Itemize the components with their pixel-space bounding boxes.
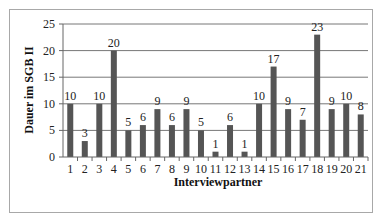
bar (227, 125, 233, 157)
bar (96, 104, 102, 157)
bar (154, 109, 160, 157)
x-tick-label: 12 (224, 162, 236, 176)
y-axis-title: Dauer im SGB II (22, 46, 36, 134)
data-label: 6 (169, 110, 175, 124)
data-label: 10 (340, 89, 352, 103)
bar (271, 67, 277, 157)
x-tick-label: 14 (253, 162, 265, 176)
data-label: 6 (227, 110, 233, 124)
bar (285, 109, 291, 157)
bar (329, 109, 335, 157)
data-label: 9 (154, 94, 160, 108)
data-label: 9 (183, 94, 189, 108)
y-tick-label: 5 (49, 123, 55, 137)
bar (183, 109, 189, 157)
data-label: 1 (213, 137, 219, 151)
x-tick-label: 16 (282, 162, 294, 176)
bar (125, 130, 131, 157)
data-label: 6 (140, 110, 146, 124)
data-label: 7 (300, 105, 306, 119)
x-tick-label: 8 (169, 162, 175, 176)
y-tick-label: 25 (43, 17, 55, 31)
data-label: 10 (64, 89, 76, 103)
y-tick-label: 20 (43, 44, 55, 58)
x-tick-label: 5 (125, 162, 131, 176)
x-tick-label: 10 (195, 162, 207, 176)
x-tick-label: 13 (239, 162, 251, 176)
x-tick-label: 15 (268, 162, 280, 176)
x-tick-label: 6 (140, 162, 146, 176)
y-tick-label: 10 (43, 97, 55, 111)
bar (111, 51, 117, 157)
y-tick-label: 0 (49, 150, 55, 164)
x-tick-label: 18 (311, 162, 323, 176)
x-tick-label: 7 (154, 162, 160, 176)
data-label: 5 (198, 115, 204, 129)
x-tick-label: 9 (183, 162, 189, 176)
x-tick-label: 1 (67, 162, 73, 176)
bar (242, 152, 248, 157)
x-tick-label: 11 (210, 162, 222, 176)
data-label: 9 (329, 94, 335, 108)
y-tick-label: 15 (43, 70, 55, 84)
data-label: 20 (108, 36, 120, 50)
data-label: 10 (253, 89, 265, 103)
bar (140, 125, 146, 157)
bar (213, 152, 219, 157)
data-label: 3 (82, 126, 88, 140)
x-tick-label: 4 (111, 162, 117, 176)
x-tick-label: 21 (355, 162, 367, 176)
bar (169, 125, 175, 157)
data-label: 8 (358, 99, 364, 113)
data-label: 9 (285, 94, 291, 108)
bar (343, 104, 349, 157)
bar (67, 104, 73, 157)
bar (198, 130, 204, 157)
x-axis-title: Interviewpartner (174, 175, 263, 189)
data-label: 23 (311, 20, 323, 34)
bar (82, 141, 88, 157)
x-tick-label: 2 (82, 162, 88, 176)
bar (256, 104, 262, 157)
bar (300, 120, 306, 157)
x-tick-label: 3 (96, 162, 102, 176)
x-tick-label: 17 (297, 162, 309, 176)
bar-chart: 1031020569695161101797239108 05101520251… (0, 0, 382, 220)
x-tick-label: 20 (340, 162, 352, 176)
x-tick-label: 19 (326, 162, 338, 176)
bar (358, 114, 364, 157)
bar (314, 35, 320, 157)
data-label: 5 (125, 115, 131, 129)
data-label: 1 (242, 137, 248, 151)
data-label: 10 (93, 89, 105, 103)
data-label: 17 (268, 52, 280, 66)
